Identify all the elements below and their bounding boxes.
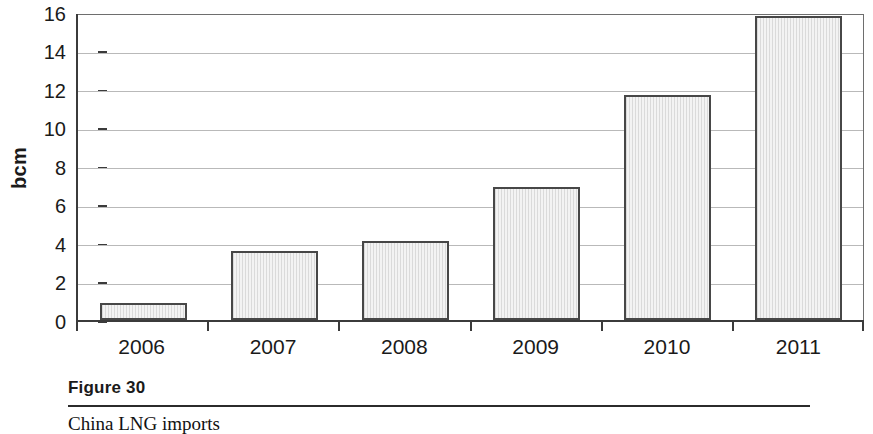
y-tick-label: 8 — [30, 158, 66, 178]
figure-caption: Figure 30 China LNG imports — [68, 378, 828, 434]
bar-slot — [602, 14, 733, 320]
x-tick-label-2006: 2006 — [76, 334, 207, 364]
x-tick-label-2011: 2011 — [733, 334, 864, 364]
bar-slot — [471, 14, 602, 320]
x-tick-mark — [76, 322, 78, 331]
bar-2007 — [231, 251, 317, 320]
plot-area — [76, 14, 864, 322]
x-tick-mark — [207, 322, 209, 331]
bar-2006 — [100, 303, 186, 320]
x-tick-mark — [338, 322, 340, 331]
bar-2009 — [493, 187, 579, 320]
x-tick-label-2010: 2010 — [601, 334, 732, 364]
bar-series — [78, 14, 864, 320]
y-tick-label: 12 — [30, 81, 66, 101]
y-tick-label: 4 — [30, 235, 66, 255]
x-tick-label-2007: 2007 — [207, 334, 338, 364]
x-tick-mark — [470, 322, 472, 331]
bar-chart-figure: bcm 16 14 12 10 8 6 4 2 0 — [0, 0, 873, 366]
y-tick-label: 16 — [30, 4, 66, 24]
bar-slot — [340, 14, 471, 320]
x-tick-mark — [601, 322, 603, 331]
x-tick-label-2008: 2008 — [339, 334, 470, 364]
x-tick-mark — [862, 322, 864, 331]
bar-2008 — [362, 241, 448, 320]
x-axis-tick-labels: 2006 2007 2008 2009 2010 2011 — [76, 334, 864, 364]
y-tick-label: 14 — [30, 42, 66, 62]
x-axis-tick-marks — [76, 322, 864, 332]
figure-title-text: China LNG imports — [68, 413, 828, 434]
y-tick-label: 2 — [30, 273, 66, 293]
y-tick-label: 10 — [30, 119, 66, 139]
figure-number-label: Figure 30 — [68, 378, 828, 398]
y-tick-label: 0 — [30, 312, 66, 332]
y-axis-tick-labels: 16 14 12 10 8 6 4 2 0 — [30, 0, 66, 330]
bar-slot — [733, 14, 864, 320]
bar-slot — [209, 14, 340, 320]
bar-slot — [78, 14, 209, 320]
figure-page: bcm 16 14 12 10 8 6 4 2 0 — [0, 0, 873, 434]
bar-2010 — [624, 95, 710, 320]
y-tick-label: 6 — [30, 196, 66, 216]
bar-2011 — [755, 16, 841, 320]
x-tick-label-2009: 2009 — [470, 334, 601, 364]
x-tick-mark — [732, 322, 734, 331]
caption-divider — [68, 405, 810, 407]
